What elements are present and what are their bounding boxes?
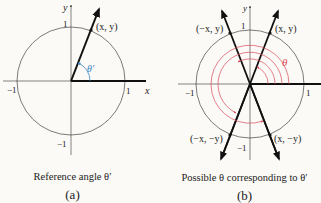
terminal-ray-a (71, 9, 99, 81)
point-q3 (228, 133, 231, 136)
caption-a: Reference angle θ′ (0, 171, 145, 182)
tick-neg-y-b: −1 (237, 144, 247, 153)
point-label-q1: (x, y) (275, 24, 297, 34)
point-q2 (228, 31, 231, 34)
tick-pos-x-a: 1 (126, 87, 131, 96)
tick-neg-y-a: −1 (57, 140, 67, 149)
x-axis-label-a: x (145, 86, 149, 96)
theta-label: θ (282, 57, 287, 68)
sublabel-a: (a) (0, 187, 145, 203)
caption-b: Possible θ corresponding to θ′ (168, 172, 321, 183)
point-label-q3: (−x, −y) (190, 134, 223, 144)
point-label-q2: (−x, y) (196, 24, 223, 34)
tick-pos-x-b: 1 (306, 89, 311, 98)
y-axis-label-b: y (243, 4, 247, 13)
tick-neg-x-b: −1 (185, 89, 195, 98)
sublabel-b: (b) (168, 188, 321, 203)
point-label-a: (x, y) (96, 22, 118, 32)
point-q4 (268, 133, 271, 136)
ref-angle-label: θ′ (87, 64, 94, 74)
y-axis-label-a: y (63, 3, 67, 13)
point-q1 (268, 31, 271, 34)
point-label-q4: (x, −y) (274, 134, 301, 144)
panel-a (3, 5, 146, 155)
tick-pos-y-a: 1 (63, 20, 68, 29)
tick-pos-y-b: 1 (241, 22, 246, 31)
tick-neg-x-a: −1 (7, 86, 17, 95)
point-xy-a (89, 28, 92, 31)
